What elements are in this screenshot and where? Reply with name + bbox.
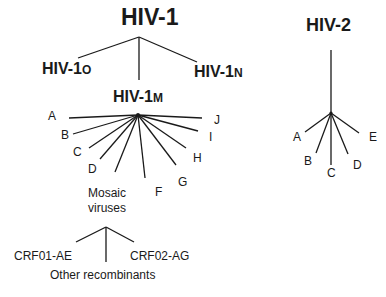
- hiv1-o-prefix: HIV-1: [42, 60, 82, 77]
- subtype-m-i: I: [209, 131, 212, 143]
- subtype-hiv2-c: C: [327, 167, 336, 179]
- mosaic-line1: Mosaic: [88, 186, 126, 201]
- subtype-m-g: G: [178, 176, 187, 188]
- mosaic-line2: viruses: [88, 201, 126, 216]
- hiv1-n-prefix: HIV-1: [194, 63, 234, 80]
- crf02-ag-label: CRF02-AG: [130, 250, 189, 262]
- branch-hiv1-o: [78, 37, 139, 58]
- node-hiv1m: [136, 113, 140, 117]
- hiv1-m-prefix: HIV-1: [113, 88, 153, 105]
- subtype-m-b: B: [61, 129, 69, 141]
- hiv-phylogeny-diagram: HIV-1 HIV-1O HIV-1N HIV-1M A B C D F G H…: [0, 0, 386, 297]
- branch-m-g: [138, 115, 176, 165]
- branch-hiv1-n: [139, 37, 197, 62]
- branch-crf01-ae: [76, 227, 106, 242]
- node-hiv2: [329, 111, 332, 114]
- hiv1-n-label: HIV-1N: [194, 64, 243, 80]
- branch-m-f: [138, 115, 145, 178]
- branch-m-mosaic: [115, 115, 138, 172]
- hiv2-title: HIV-2: [306, 16, 351, 34]
- hiv1-n-suffix: N: [234, 66, 243, 80]
- subtype-hiv2-a: A: [293, 131, 301, 143]
- subtype-hiv2-b: B: [304, 155, 312, 167]
- subtype-m-d: D: [88, 163, 97, 175]
- hiv1-title: HIV-1: [121, 6, 179, 29]
- subtype-m-h: H: [193, 152, 202, 164]
- branch-m-h: [138, 115, 186, 148]
- subtype-m-j: J: [214, 114, 220, 126]
- branch-crf02-ag: [106, 227, 134, 242]
- subtype-hiv2-e: E: [369, 131, 377, 143]
- hiv1-o-suffix: O: [82, 63, 91, 77]
- subtype-m-c: C: [73, 146, 82, 158]
- crf01-ae-label: CRF01-AE: [14, 250, 72, 262]
- subtype-m-a: A: [48, 110, 56, 122]
- hiv1-m-label: HIV-1M: [113, 89, 163, 105]
- subtype-hiv2-d: D: [353, 159, 362, 171]
- subtype-m-f: F: [155, 186, 162, 198]
- other-recombinants-label: Other recombinants: [50, 269, 155, 281]
- mosaic-viruses-label: Mosaic viruses: [88, 186, 126, 216]
- hiv1-o-label: HIV-1O: [42, 61, 91, 77]
- hiv1-m-suffix: M: [153, 91, 163, 105]
